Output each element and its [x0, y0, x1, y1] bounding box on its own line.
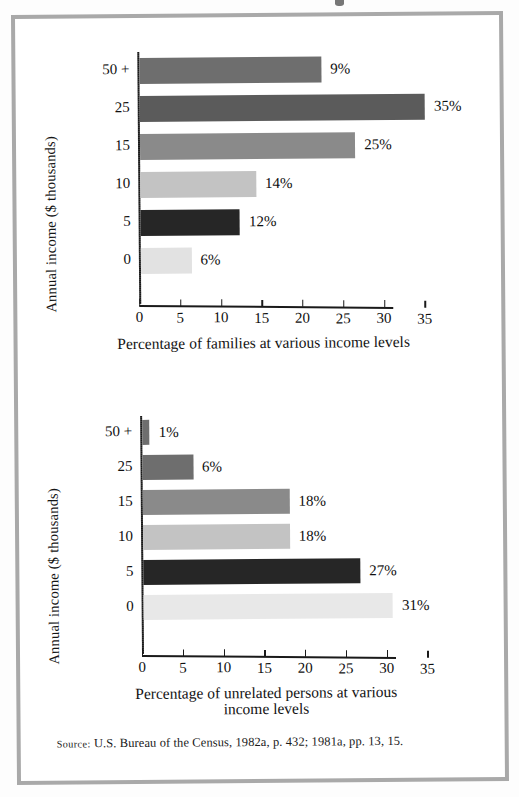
x-axis-tick	[343, 300, 344, 307]
bar-value-label: 1%	[159, 423, 179, 440]
bar-row: 6%	[142, 454, 273, 480]
category-label: 15	[77, 493, 133, 510]
x-axis-tick	[384, 300, 385, 307]
category-label: 25	[74, 99, 130, 116]
x-axis-tick	[180, 299, 181, 306]
chart-unrelated-persons: Annual income ($ thousands) 1%6%18%18%27…	[14, 393, 509, 727]
bar-row: 12%	[141, 209, 321, 236]
bar-row: 14%	[140, 170, 336, 198]
bar-value-label: 12%	[249, 213, 277, 230]
bar-value-label: 27%	[369, 562, 397, 579]
x-axis-tick	[142, 649, 143, 656]
x-axis-tick	[386, 650, 387, 657]
bar	[144, 593, 394, 620]
category-label: 10	[74, 175, 130, 192]
category-label: 25	[76, 458, 132, 475]
bar-value-label: 14%	[265, 175, 293, 192]
bar	[143, 489, 290, 515]
bar-row: 6%	[141, 247, 272, 274]
bar-value-label: 6%	[200, 251, 220, 268]
source-label: Source:	[57, 738, 91, 749]
x-axis-tick	[424, 301, 425, 308]
x-axis-tick	[264, 650, 265, 657]
bar	[139, 57, 321, 84]
x-axis-tick-label: 20	[298, 660, 313, 677]
x-axis-tick	[139, 299, 140, 306]
chart-families-plot: 9%35%25%14%12%6%	[137, 50, 429, 304]
x-axis-tick-label: 10	[216, 659, 231, 676]
bar	[141, 248, 192, 274]
x-axis-tick	[223, 649, 224, 656]
chart-persons-plot: 1%6%18%18%27%31%	[140, 414, 432, 654]
x-axis-tick-label: 35	[417, 311, 432, 328]
x-axis-tick-label: 15	[254, 310, 269, 327]
bar	[142, 455, 193, 480]
bar	[140, 94, 425, 122]
figure-content: Annual income ($ thousands) 9%35%25%14%1…	[11, 11, 509, 785]
bar	[143, 524, 290, 550]
bar-value-label: 6%	[202, 458, 222, 475]
chart-persons-category-axis	[142, 655, 396, 659]
bar-row: 9%	[139, 56, 401, 84]
category-label: 0	[78, 597, 134, 614]
x-axis-tick-label: 20	[295, 310, 310, 327]
chart-persons-y-axis-title: Annual income ($ thousands)	[44, 415, 63, 665]
category-label: 5	[77, 563, 133, 580]
x-axis-tick	[261, 300, 262, 307]
bar-row: 31%	[144, 592, 474, 620]
source-note: Source: U.S. Bureau of the Census, 1982a…	[57, 734, 404, 752]
category-label: 50 +	[76, 423, 132, 440]
source-citation: U.S. Bureau of the Census, 1982a, p. 432…	[94, 734, 404, 750]
scan-artifact-mark	[335, 0, 344, 6]
x-axis-tick-label: 30	[379, 660, 394, 677]
x-axis-tick-label: 25	[336, 310, 351, 327]
bar-row: 25%	[140, 132, 435, 160]
x-axis-tick-label: 15	[257, 660, 272, 677]
chart-families-y-axis-title: Annual income ($ thousands)	[41, 45, 60, 313]
x-axis-title: Percentage of families at various income…	[54, 333, 474, 353]
bar-value-label: 18%	[298, 492, 326, 509]
bar-row: 18%	[143, 523, 370, 550]
bar-row: 35%	[140, 93, 505, 122]
bar	[140, 171, 256, 198]
bar-row: 27%	[143, 558, 440, 585]
category-label: 10	[77, 528, 133, 545]
x-axis-tick-label: 30	[376, 310, 391, 327]
chart-families: Annual income ($ thousands) 9%35%25%14%1…	[11, 11, 506, 377]
x-axis-tick-label: 0	[136, 309, 144, 326]
x-axis-tick-label: 0	[138, 659, 146, 676]
bar	[140, 132, 355, 160]
bar	[141, 209, 241, 236]
x-axis-tick	[427, 651, 428, 658]
bar-value-label: 9%	[330, 60, 350, 77]
x-axis-title: Percentage of unrelated persons at vario…	[56, 683, 476, 719]
bar	[143, 558, 360, 585]
bar-value-label: 31%	[402, 596, 430, 613]
category-label: 5	[75, 213, 131, 230]
x-axis-tick-label: 25	[338, 660, 353, 677]
bar-value-label: 25%	[364, 136, 392, 153]
scanned-page: Annual income ($ thousands) 9%35%25%14%1…	[0, 0, 519, 797]
bar-row: 18%	[143, 488, 370, 515]
x-axis-tick	[302, 300, 303, 307]
x-axis-tick	[305, 650, 306, 657]
bar	[142, 420, 150, 445]
category-label: 50 +	[73, 61, 129, 78]
x-axis-tick	[183, 649, 184, 656]
bar-row: 1%	[142, 419, 230, 445]
bar-value-label: 18%	[299, 527, 327, 544]
chart-families-category-axis	[139, 305, 393, 309]
x-axis-tick-label: 10	[213, 309, 228, 326]
category-label: 15	[74, 137, 130, 154]
x-axis-tick-label: 35	[420, 661, 435, 678]
category-label: 0	[75, 251, 131, 268]
x-axis-tick	[346, 650, 347, 657]
x-axis-tick-label: 5	[176, 309, 184, 326]
bar-value-label: 35%	[434, 98, 462, 115]
x-axis-tick	[221, 299, 222, 306]
x-axis-tick-label: 5	[179, 659, 187, 676]
